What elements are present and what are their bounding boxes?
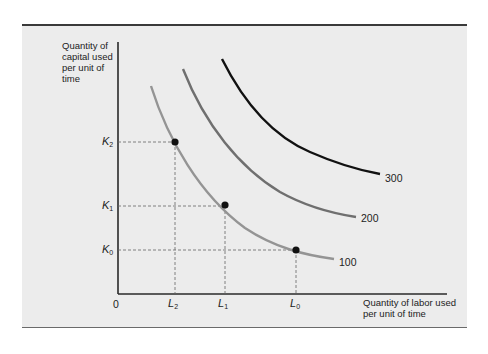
x-label-line: per unit of time bbox=[363, 308, 473, 319]
tick-k0: K0 bbox=[102, 243, 113, 256]
x-axis-label: Quantity of labor used per unit of time bbox=[363, 297, 473, 319]
tick-l0: L0 bbox=[290, 297, 300, 310]
point-l0-k0 bbox=[292, 246, 299, 253]
x-label-line: Quantity of labor used bbox=[363, 297, 473, 308]
y-label-line: per unit of bbox=[62, 62, 142, 73]
point-l1-k1 bbox=[221, 201, 228, 208]
y-label-line: time bbox=[62, 73, 142, 84]
point-l2-k2 bbox=[171, 138, 178, 145]
origin-label: 0 bbox=[113, 298, 119, 310]
y-axis-label: Quantity of capital used per unit of tim… bbox=[62, 40, 142, 84]
tick-k1: K1 bbox=[102, 199, 113, 212]
isoquant-300 bbox=[222, 59, 380, 174]
isoquant-200-label: 200 bbox=[361, 212, 379, 224]
isoquant-100-label: 100 bbox=[339, 256, 357, 268]
isoquant-300-label: 300 bbox=[385, 172, 403, 184]
y-label-line: Quantity of bbox=[62, 40, 142, 51]
y-label-line: capital used bbox=[62, 51, 142, 62]
tick-l2: L2 bbox=[168, 297, 178, 310]
isoquant-100 bbox=[151, 86, 334, 259]
tick-l1: L1 bbox=[218, 297, 228, 310]
tick-k2: K2 bbox=[102, 135, 113, 148]
